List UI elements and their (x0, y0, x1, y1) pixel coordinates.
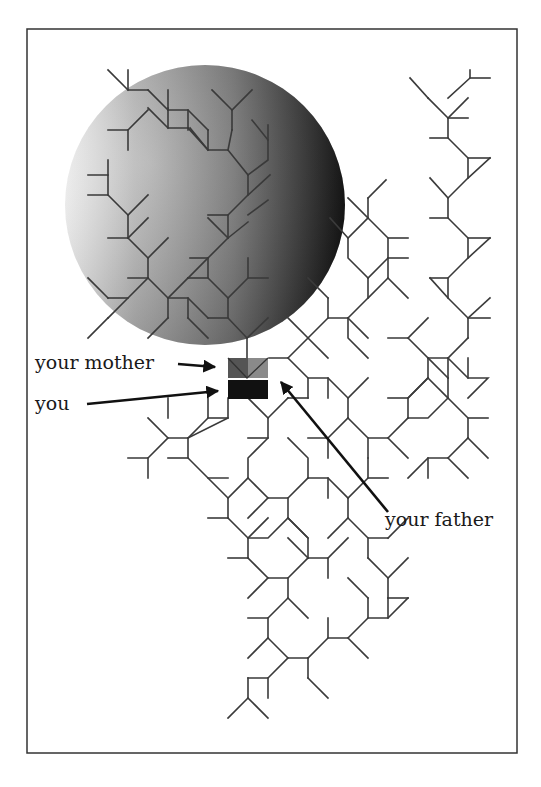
mother-square (228, 358, 268, 378)
label-you: you (34, 392, 69, 414)
you-square (228, 380, 268, 399)
ancestry-diagram: your mother you your father (0, 0, 541, 787)
ancestor-sphere (65, 65, 345, 345)
label-your-father: your father (384, 508, 494, 530)
you-arrow (87, 391, 218, 404)
mother-arrow (178, 364, 215, 367)
label-your-mother: your mother (34, 351, 155, 373)
